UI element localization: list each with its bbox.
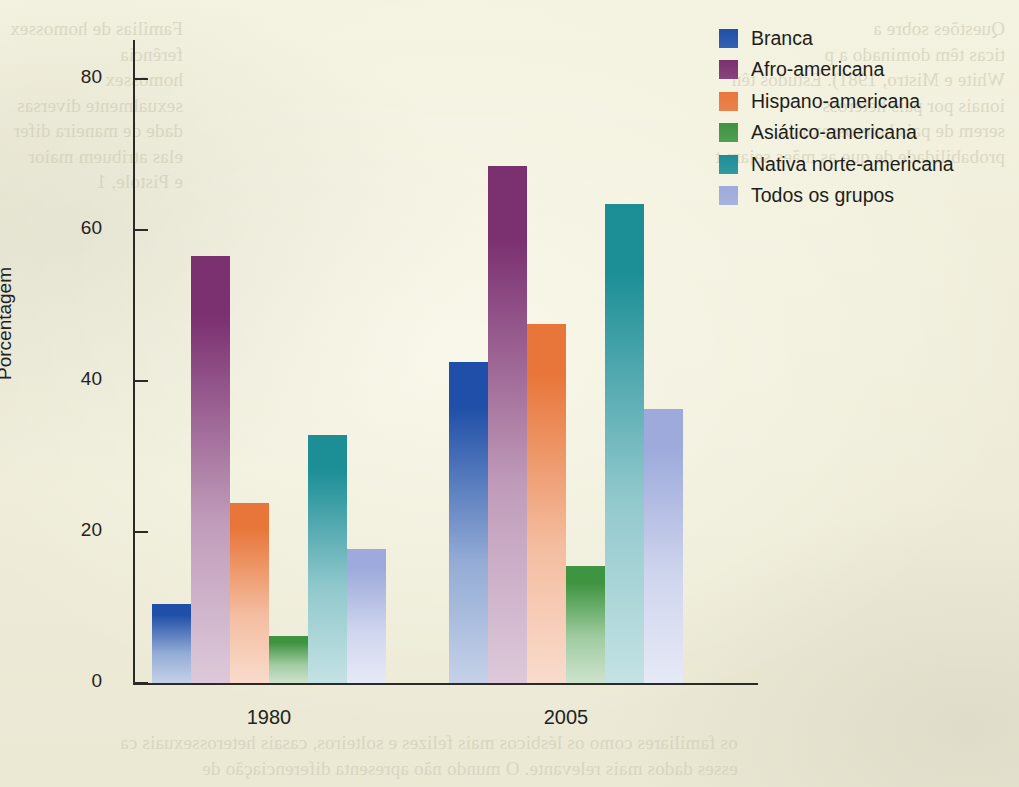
y-tick-label-0: 0 xyxy=(62,670,102,692)
y-tick-label-80: 80 xyxy=(62,66,102,88)
y-tick-label-20: 20 xyxy=(62,519,102,541)
bar-hispano-americana-1980 xyxy=(230,503,269,683)
x-axis-label-1980: 1980 xyxy=(209,706,329,729)
bar-asiatico-americana-1980 xyxy=(269,636,308,683)
legend-item-todos-os-grupos[interactable]: Todos os grupos xyxy=(719,186,954,206)
legend-label: Nativa norte-americana xyxy=(751,153,954,176)
legend-swatch-icon xyxy=(719,155,738,174)
legend-item-hispano-americana[interactable]: Hispano-americana xyxy=(719,91,954,111)
legend-swatch-icon xyxy=(719,92,738,111)
x-axis-line xyxy=(133,683,758,685)
legend-label: Asiático-americana xyxy=(751,121,917,144)
bar-todos-os-grupos-2005 xyxy=(644,409,683,683)
bar-afro-americana-2005 xyxy=(488,166,527,683)
y-tick-label-40: 40 xyxy=(62,368,102,390)
bar-hispano-americana-2005 xyxy=(527,324,566,683)
y-axis-line xyxy=(133,40,135,685)
legend-swatch-icon xyxy=(719,29,738,48)
y-tick-20 xyxy=(135,531,148,533)
legend-item-afro-americana[interactable]: Afro-americana xyxy=(719,60,954,80)
chart-legend: BrancaAfro-americanaHispano-americanaAsi… xyxy=(719,28,954,217)
y-tick-60 xyxy=(135,229,148,231)
bar-nativa-norte-americana-1980 xyxy=(308,435,347,683)
legend-swatch-icon xyxy=(719,186,738,205)
bar-afro-americana-1980 xyxy=(191,256,230,683)
legend-label: Todos os grupos xyxy=(751,184,894,207)
legend-item-nativa-norte-americana[interactable]: Nativa norte-americana xyxy=(719,154,954,174)
legend-label: Afro-americana xyxy=(751,58,884,81)
legend-label: Branca xyxy=(751,27,813,50)
y-tick-40 xyxy=(135,380,148,382)
legend-swatch-icon xyxy=(719,123,738,142)
y-tick-label-60: 60 xyxy=(62,217,102,239)
chart-page: Questões sobre a ticas têm dominado a p … xyxy=(0,0,1019,787)
legend-item-asiatico-americana[interactable]: Asiático-americana xyxy=(719,123,954,143)
bar-branca-2005 xyxy=(449,362,488,683)
y-tick-0 xyxy=(135,682,148,684)
legend-swatch-icon xyxy=(719,60,738,79)
legend-label: Hispano-americana xyxy=(751,90,920,113)
y-tick-80 xyxy=(135,78,148,80)
legend-item-branca[interactable]: Branca xyxy=(719,28,954,48)
bar-nativa-norte-americana-2005 xyxy=(605,204,644,683)
bar-branca-1980 xyxy=(152,604,191,683)
bar-todos-os-grupos-1980 xyxy=(347,549,386,683)
y-axis-title: Porcentagem xyxy=(0,267,16,380)
bar-asiatico-americana-2005 xyxy=(566,566,605,683)
bar-chart-plot: Porcentagem 020406080 19802005 BrancaAfr… xyxy=(0,0,1019,787)
x-axis-label-2005: 2005 xyxy=(506,706,626,729)
